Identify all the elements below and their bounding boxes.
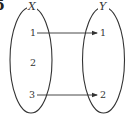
figure-number-label: 5 <box>0 0 5 13</box>
set-x-label: X <box>27 0 37 13</box>
set-x-element: 1 <box>30 27 36 38</box>
set-y-element: 1 <box>100 27 106 38</box>
set-y-element: 2 <box>100 89 106 100</box>
set-x-element: 2 <box>30 57 36 68</box>
set-x-element: 3 <box>29 89 35 100</box>
mapping-diagram: 5 X Y 1 2 3 1 2 <box>0 0 126 116</box>
